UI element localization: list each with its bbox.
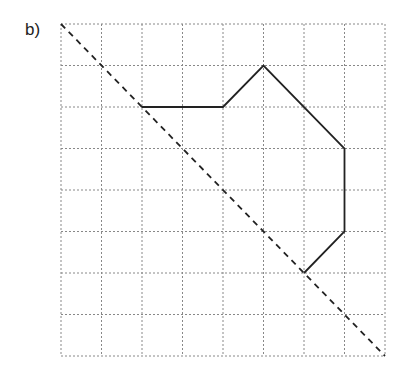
reflection-grid — [0, 0, 403, 376]
shape-outline — [142, 66, 345, 274]
